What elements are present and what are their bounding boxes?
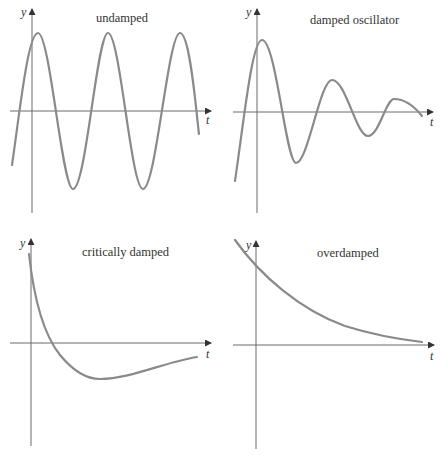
t-axis-label: t — [206, 347, 210, 361]
y-axis-label: y — [245, 5, 252, 19]
panel-damped-oscillator: y t damped oscillator — [233, 5, 434, 213]
panel-critically-damped: y t critically damped — [10, 236, 211, 446]
panel-overdamped: y t overdamped — [233, 238, 434, 449]
panel-title: critically damped — [82, 245, 170, 259]
y-axis-label: y — [19, 236, 26, 250]
t-axis-label: t — [206, 113, 210, 127]
t-axis-label: t — [430, 115, 434, 129]
panel-undamped: y t undamped — [10, 5, 211, 213]
y-axis-label: y — [245, 238, 252, 252]
panel-title: undamped — [96, 11, 149, 25]
t-axis-label: t — [430, 349, 434, 363]
damped-oscillator-curve — [235, 40, 422, 181]
oscillator-figure: y t undamped y t damped oscillator y t c… — [0, 0, 440, 455]
panel-title: damped oscillator — [310, 13, 400, 27]
panel-title: overdamped — [317, 246, 380, 260]
y-axis-label: y — [20, 5, 27, 19]
critically-damped-curve — [29, 254, 197, 379]
